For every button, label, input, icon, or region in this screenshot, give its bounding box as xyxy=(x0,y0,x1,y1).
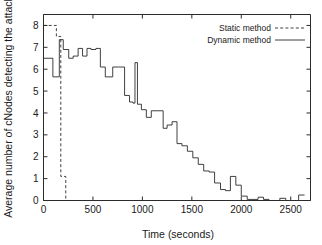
chart-legend: Static methodDynamic method xyxy=(207,23,305,45)
chart-plot: 012345678 05001000150020002500 Static me… xyxy=(0,0,322,245)
x-tick-label: 2000 xyxy=(230,204,253,215)
y-tick-label: 2 xyxy=(33,151,39,162)
y-tick-label: 3 xyxy=(33,129,39,140)
chart-figure: 012345678 05001000150020002500 Static me… xyxy=(0,0,322,245)
y-axis-label: Average number of cNodes detecting the a… xyxy=(2,0,14,218)
y-tick-label: 5 xyxy=(33,86,39,97)
y-tick-label: 0 xyxy=(33,195,39,206)
y-tick-label: 7 xyxy=(33,42,39,53)
series-solid xyxy=(44,40,305,201)
y-tick-label: 8 xyxy=(33,20,39,31)
legend-label: Static method xyxy=(219,23,271,33)
y-tick-label: 6 xyxy=(33,64,39,75)
y-tick-label: 4 xyxy=(33,108,39,119)
y-axis-ticks: 012345678 xyxy=(33,20,311,206)
x-tick-label: 1000 xyxy=(131,204,154,215)
x-tick-label: 1500 xyxy=(181,204,204,215)
x-axis-label: Time (seconds) xyxy=(142,228,214,240)
legend-label: Dynamic method xyxy=(207,35,271,45)
y-tick-label: 1 xyxy=(33,173,39,184)
x-tick-label: 500 xyxy=(85,204,102,215)
data-series-group xyxy=(44,25,305,200)
x-tick-label: 2500 xyxy=(280,204,303,215)
x-tick-label: 0 xyxy=(41,204,47,215)
